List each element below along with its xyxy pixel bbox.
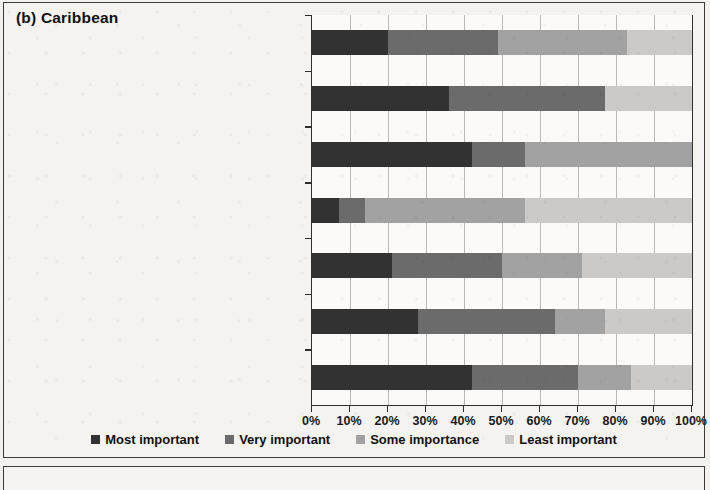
- adjacent-panel-top-edge: [3, 466, 705, 490]
- category-tick: [305, 71, 312, 72]
- legend-swatch-icon: [356, 435, 365, 444]
- bar-segment: [312, 86, 449, 111]
- x-tick: [387, 405, 388, 412]
- bar-segment: [392, 253, 502, 278]
- bar-segment: [555, 309, 604, 334]
- bar-segment: [312, 198, 339, 223]
- legend-swatch-icon: [225, 435, 234, 444]
- bar-segment: [449, 86, 605, 111]
- stacked-bar: [312, 86, 692, 111]
- legend-label: Very important: [239, 432, 330, 447]
- bar-segment: [525, 198, 692, 223]
- legend-item[interactable]: Least important: [505, 432, 617, 447]
- stacked-bar: [312, 30, 692, 55]
- category-tick: [305, 15, 312, 16]
- x-tick-label: 70%: [564, 414, 589, 428]
- x-tick: [539, 405, 540, 412]
- x-tick: [691, 405, 692, 412]
- category-tick: [305, 294, 312, 295]
- x-tick: [501, 405, 502, 412]
- bar-segment: [605, 86, 692, 111]
- bar-segment: [312, 309, 418, 334]
- bar-segment: [631, 365, 692, 390]
- x-tick-label: 40%: [450, 414, 475, 428]
- x-tick-label: 90%: [640, 414, 665, 428]
- stacked-bar: [312, 198, 692, 223]
- legend-item[interactable]: Some importance: [356, 432, 479, 447]
- legend-label: Least important: [519, 432, 617, 447]
- page-title: (b) Caribbean: [16, 9, 119, 27]
- bar-segment: [498, 30, 627, 55]
- legend-item[interactable]: Very important: [225, 432, 330, 447]
- chart-panel: (b) Caribbean 0%10%20%30%40%50%60%70%80%…: [3, 2, 705, 458]
- x-tick: [463, 405, 464, 412]
- x-tick-label: 50%: [488, 414, 513, 428]
- bar-segment: [312, 142, 472, 167]
- stacked-bar: [312, 309, 692, 334]
- bar-segment: [388, 30, 498, 55]
- legend-swatch-icon: [91, 435, 100, 444]
- x-tick: [311, 405, 312, 412]
- category-tick: [305, 349, 312, 350]
- bar-segment: [312, 30, 388, 55]
- x-tick: [653, 405, 654, 412]
- legend-swatch-icon: [505, 435, 514, 444]
- x-tick-label: 30%: [412, 414, 437, 428]
- x-tick-label: 10%: [336, 414, 361, 428]
- bar-segment: [472, 142, 525, 167]
- chart-legend: Most importantVery importantSome importa…: [4, 432, 704, 447]
- x-tick: [577, 405, 578, 412]
- bar-segment: [418, 309, 555, 334]
- stacked-bar: [312, 253, 692, 278]
- legend-label: Most important: [105, 432, 199, 447]
- bar-segment: [605, 309, 692, 334]
- x-tick: [615, 405, 616, 412]
- legend-label: Some importance: [370, 432, 479, 447]
- bar-segment: [312, 253, 392, 278]
- category-tick: [305, 126, 312, 127]
- x-tick-label: 0%: [302, 414, 320, 428]
- x-tick-label: 80%: [602, 414, 627, 428]
- bar-segment: [525, 142, 692, 167]
- bar-segment: [472, 365, 578, 390]
- x-tick: [425, 405, 426, 412]
- bar-segment: [339, 198, 366, 223]
- x-tick-label: 100%: [675, 414, 707, 428]
- bar-segment: [627, 30, 692, 55]
- plot-area: [311, 15, 693, 406]
- bar-segment: [365, 198, 525, 223]
- x-tick-label: 20%: [374, 414, 399, 428]
- category-tick: [305, 182, 312, 183]
- stacked-bar: [312, 142, 692, 167]
- x-tick: [349, 405, 350, 412]
- bar-segment: [578, 365, 631, 390]
- x-tick-label: 60%: [526, 414, 551, 428]
- bar-segment: [502, 253, 582, 278]
- legend-item[interactable]: Most important: [91, 432, 199, 447]
- bar-segment: [312, 365, 472, 390]
- stacked-bar: [312, 365, 692, 390]
- category-tick: [305, 238, 312, 239]
- bar-segment: [582, 253, 692, 278]
